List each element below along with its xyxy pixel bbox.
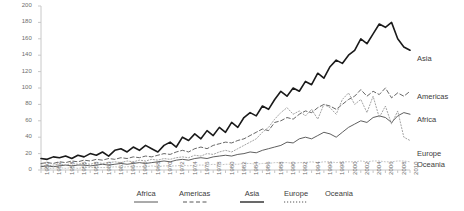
- legend-swatch: [283, 200, 309, 204]
- x-tick-label: 1994: [315, 161, 321, 175]
- y-tick-label: 160: [10, 35, 32, 41]
- series-label-americas: Americas: [417, 92, 448, 101]
- axis-group: [38, 6, 410, 173]
- y-tick-label: 20: [10, 150, 32, 156]
- x-tick-label: 1982: [241, 161, 247, 175]
- x-tick-label: 2000: [352, 161, 358, 175]
- x-tick-label: 1968: [155, 161, 161, 175]
- legend-item-asia[interactable]: Asia: [239, 189, 265, 204]
- x-tick-label: 2008: [401, 161, 407, 175]
- x-tick-label: 1958: [93, 161, 99, 175]
- y-tick-label: 60: [10, 117, 32, 123]
- series-line-africa: [41, 113, 410, 167]
- legend-item-africa[interactable]: Africa: [133, 189, 159, 204]
- x-tick-label: 1992: [302, 161, 308, 175]
- line-chart: 200180160140120100806040200 195019521954…: [0, 0, 464, 211]
- x-tick-label: 1960: [106, 161, 112, 175]
- y-tick-label: 80: [10, 100, 32, 106]
- x-tick-label: 1990: [290, 161, 296, 175]
- x-tick-label: 1970: [167, 161, 173, 175]
- series-label-africa: Africa: [417, 115, 436, 124]
- y-tick-label: 100: [10, 84, 32, 90]
- legend-label: Oceania: [325, 189, 353, 198]
- y-tick-label: 40: [10, 133, 32, 139]
- series-lines: [41, 22, 410, 168]
- legend-item-oceania[interactable]: Oceania: [325, 189, 353, 198]
- legend-label: Europe: [283, 189, 309, 198]
- x-tick-label: 1988: [278, 161, 284, 175]
- legend-swatch: [239, 200, 265, 204]
- x-tick-label: 2006: [388, 161, 394, 175]
- x-tick-label: 1978: [216, 161, 222, 175]
- legend-label: Africa: [133, 189, 159, 198]
- y-tick-label: 140: [10, 51, 32, 57]
- x-tick-label: 1996: [327, 161, 333, 175]
- plot-area: [0, 0, 464, 211]
- y-tick-label: 180: [10, 18, 32, 24]
- legend-label: Americas: [179, 189, 210, 198]
- legend-label: Asia: [239, 189, 265, 198]
- y-tick-label: 120: [10, 68, 32, 74]
- x-tick-label: 1956: [81, 161, 87, 175]
- legend-swatch: [182, 200, 208, 204]
- legend-swatch: [133, 200, 159, 204]
- x-tick-label: 1954: [69, 161, 75, 175]
- x-tick-label: 1986: [265, 161, 271, 175]
- legend-item-americas[interactable]: Americas: [179, 189, 210, 204]
- x-tick-label: 1984: [253, 161, 259, 175]
- series-label-asia: Asia: [417, 54, 432, 63]
- x-tick-label: 1962: [118, 161, 124, 175]
- legend-item-europe[interactable]: Europe: [283, 189, 309, 204]
- series-label-europe: Europe: [417, 149, 441, 158]
- y-tick-label: 0: [10, 166, 32, 172]
- series-line-asia: [41, 22, 410, 159]
- x-tick-label: 1950: [44, 161, 50, 175]
- x-tick-label: 1952: [56, 161, 62, 175]
- series-label-oceania: Oceania: [417, 160, 445, 169]
- x-tick-label: 1974: [192, 161, 198, 175]
- y-tick-label: 200: [10, 2, 32, 8]
- x-tick-label: 2002: [364, 161, 370, 175]
- x-tick-label: 1980: [229, 161, 235, 175]
- x-tick-label: 1972: [179, 161, 185, 175]
- series-line-americas: [41, 88, 410, 163]
- x-tick-label: 1998: [339, 161, 345, 175]
- x-tick-label: 1964: [130, 161, 136, 175]
- x-tick-label: 1966: [142, 161, 148, 175]
- x-tick-label: 2004: [376, 161, 382, 175]
- x-tick-label: 1976: [204, 161, 210, 175]
